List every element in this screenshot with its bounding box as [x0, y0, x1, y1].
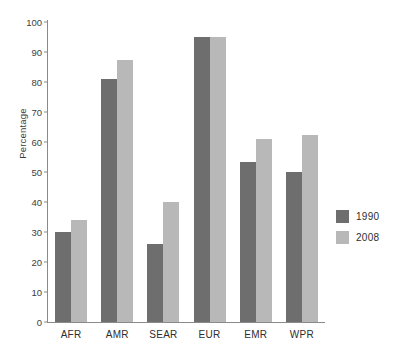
x-axis-label-amr: AMR	[106, 329, 129, 340]
x-axis-label-wpr: WPR	[290, 329, 314, 340]
y-axis-tick-label: 50	[0, 167, 47, 178]
bar-group	[101, 22, 133, 322]
bar-group	[55, 22, 87, 322]
y-axis-tick-label: 30	[0, 227, 47, 238]
legend-label-1990: 1990	[356, 211, 379, 222]
bar-eur-1990	[194, 37, 210, 322]
bar-amr-2008	[117, 60, 133, 323]
y-axis-tick-label: 0	[0, 317, 47, 328]
bar-group	[147, 22, 179, 322]
plot-area	[48, 22, 325, 322]
legend-swatch-1990	[336, 210, 349, 223]
x-axis-label-eur: EUR	[199, 329, 221, 340]
bar-group	[194, 22, 226, 322]
y-axis-tick-label: 70	[0, 107, 47, 118]
legend-label-2008: 2008	[356, 232, 379, 243]
bar-wpr-1990	[286, 172, 302, 322]
x-axis-label-afr: AFR	[61, 329, 82, 340]
bar-emr-1990	[240, 162, 256, 323]
chart-legend: 19902008	[336, 206, 379, 248]
legend-item-2008: 2008	[336, 227, 379, 248]
y-axis-tick-label: 10	[0, 287, 47, 298]
bar-sear-1990	[147, 244, 163, 322]
x-axis-line	[47, 322, 325, 323]
y-axis-tick-label: 90	[0, 47, 47, 58]
bar-wpr-2008	[302, 135, 318, 323]
bar-afr-2008	[71, 220, 87, 322]
bar-emr-2008	[256, 139, 272, 322]
bar-group	[240, 22, 272, 322]
y-axis-tick-label: 60	[0, 137, 47, 148]
x-axis-label-emr: EMR	[244, 329, 267, 340]
bar-chart: Percentage 0102030405060708090100 199020…	[0, 0, 398, 356]
y-axis-tick-labels: 0102030405060708090100	[0, 0, 47, 356]
legend-swatch-2008	[336, 231, 349, 244]
bar-group	[286, 22, 318, 322]
x-axis-label-sear: SEAR	[149, 329, 177, 340]
y-axis-tick-label: 40	[0, 197, 47, 208]
bar-amr-1990	[101, 79, 117, 322]
legend-item-1990: 1990	[336, 206, 379, 227]
y-axis-tick-label: 100	[0, 17, 47, 28]
bar-afr-1990	[55, 232, 71, 322]
y-axis-tick-label: 20	[0, 257, 47, 268]
y-axis-tick-label: 80	[0, 77, 47, 88]
bar-sear-2008	[163, 202, 179, 322]
bar-eur-2008	[210, 37, 226, 322]
